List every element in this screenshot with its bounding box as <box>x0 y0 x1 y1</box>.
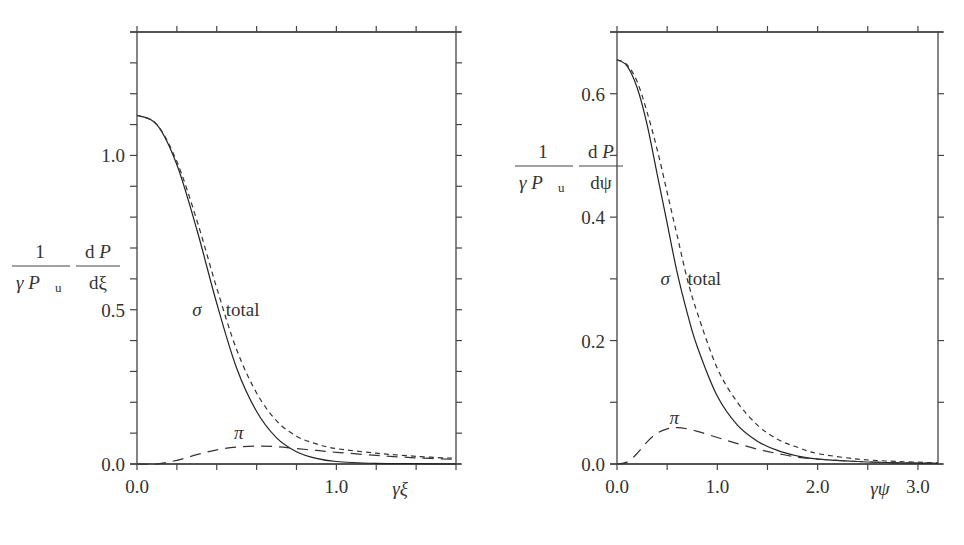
x-tick-label: 1.0 <box>705 476 729 497</box>
svg-text:u: u <box>55 280 62 295</box>
svg-text:d P: d P <box>588 141 614 162</box>
chart-figure: 0.01.00.00.51.0γξ1γ Pud Pdξσtotalπ 0.01.… <box>0 0 964 545</box>
svg-text:dξ: dξ <box>89 272 108 293</box>
series-total-curve <box>617 60 938 463</box>
svg-text:dψ: dψ <box>590 172 612 193</box>
x-tick-label: 2.0 <box>806 476 830 497</box>
annotation-total: total <box>226 299 260 320</box>
y-tick-label: 0.2 <box>581 331 605 352</box>
x-axis-label: γψ <box>870 478 890 499</box>
left-chart-panel: 0.01.00.00.51.0γξ1γ Pud Pdξσtotalπ <box>12 26 462 499</box>
y-tick-label: 0.0 <box>101 454 125 475</box>
x-tick-label: 0.0 <box>125 476 149 497</box>
plot-frame <box>617 32 938 464</box>
series-sigma-curve <box>617 60 938 464</box>
annotation-sigma: σ <box>192 299 202 320</box>
x-tick-label: 0.0 <box>605 476 629 497</box>
svg-text:1: 1 <box>35 241 45 262</box>
svg-text:d P: d P <box>85 241 111 262</box>
y-tick-label: 0.4 <box>581 207 605 228</box>
annotation-sigma: σ <box>660 268 670 289</box>
x-axis-label: γξ <box>392 478 408 499</box>
series-sigma-curve <box>137 115 456 464</box>
svg-text:γ P: γ P <box>519 172 543 193</box>
annotation-pi: π <box>669 407 679 428</box>
y-tick-label: 0.0 <box>581 454 605 475</box>
y-axis-label: 1γ Pud Pdξ <box>12 241 120 295</box>
series-total-curve <box>137 115 456 458</box>
annotation-pi: π <box>234 422 244 443</box>
y-axis-label: 1γ Pud Pdψ <box>515 141 623 195</box>
x-tick-label: 3.0 <box>906 476 930 497</box>
annotation-total: total <box>687 268 721 289</box>
svg-text:γ P: γ P <box>16 272 40 293</box>
right-chart-panel: 0.01.02.03.00.00.20.40.6γψ1γ Pud Pdψσtot… <box>515 26 944 499</box>
y-tick-label: 0.6 <box>581 84 605 105</box>
svg-text:1: 1 <box>538 141 548 162</box>
y-tick-label: 0.5 <box>101 300 125 321</box>
series-pi-curve <box>137 446 456 464</box>
x-tick-label: 1.0 <box>325 476 349 497</box>
plot-frame <box>137 32 456 464</box>
series-pi-curve <box>617 428 938 464</box>
y-tick-label: 1.0 <box>101 145 125 166</box>
svg-text:u: u <box>558 180 565 195</box>
